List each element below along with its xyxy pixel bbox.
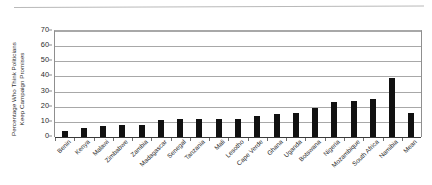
y-axis-title: Percentage Who Think Politicians Keep Ca… [2,26,32,152]
x-axis-label-ghana: Ghana [265,138,284,157]
y-axis-tick-60: 60 [41,41,49,49]
y-axis-title-line2: Keep Campaign Promises [18,53,25,126]
y-axis-title-line1: Percentage Who Think Politicians [10,42,17,136]
bar [274,114,280,137]
y-axis-tick-mark [49,136,52,137]
bar-cell [383,31,402,137]
bar-chart: Percentage Who Think Politicians Keep Ca… [0,14,432,185]
page-separator-rule [14,5,424,8]
x-axis-label-kenya: Kenya [73,138,91,156]
plot-area [54,30,422,137]
bar-cell [171,31,190,137]
x-axis-label-mali: Mali [212,138,225,151]
bar [254,116,260,137]
y-axis-tick-labels: 010203040506070 [30,14,52,159]
bar-cell [286,31,305,137]
y-axis-tick-10: 10 [41,117,49,125]
bar [389,78,395,137]
bar-cell [305,31,324,137]
x-axis-label-benin: Benin [55,138,72,155]
x-axis-category-labels: BeninKenyaMalawiZimbabweZambiaMadagascar… [54,138,420,185]
y-axis-tick-20: 20 [41,102,49,110]
bar-cell [209,31,228,137]
bar-cell [190,31,209,137]
bar-cell [132,31,151,137]
bar [177,119,183,137]
bar-cell [151,31,170,137]
bar-cell [344,31,363,137]
y-axis-tick-mark [49,120,52,121]
chart-page: Percentage Who Think Politicians Keep Ca… [0,0,432,185]
y-axis-tick-30: 30 [41,87,49,95]
bar-series [55,31,421,137]
y-axis-tick-mark [49,75,52,76]
bar [351,101,357,137]
bar [235,119,241,137]
bar [408,113,414,137]
bar-cell [248,31,267,137]
y-axis-tick-50: 50 [41,56,49,64]
bar [100,126,106,137]
y-axis-tick-mark [49,30,52,31]
bar [158,120,164,137]
bar-cell [363,31,382,137]
bar [216,119,222,137]
y-axis-tick-mark [49,90,52,91]
bar-cell [55,31,74,137]
bar-cell [267,31,286,137]
bar-cell [228,31,247,137]
y-axis-tick-40: 40 [41,71,49,79]
bar-cell [113,31,132,137]
bar [119,125,125,137]
bar-cell [74,31,93,137]
y-axis-tick-mark [49,105,52,106]
bar-cell [94,31,113,137]
bar-cell [402,31,421,137]
x-axis-label-tanzania: Tanzania [183,138,206,161]
bar [81,128,87,137]
y-axis-tick-70: 70 [41,26,49,34]
bar [370,99,376,137]
x-axis-label-namibia: Namibia [378,138,400,160]
bar [312,108,318,137]
bar [139,125,145,137]
bar [331,102,337,137]
bar [196,119,202,137]
bar-cell [325,31,344,137]
x-axis-label-mean: Mean [402,138,418,154]
y-axis-tick-mark [49,60,52,61]
bar [293,113,299,137]
y-axis-tick-mark [49,45,52,46]
